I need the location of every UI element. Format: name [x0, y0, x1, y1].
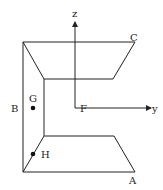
- solid-figure: [23, 42, 135, 172]
- top-right-slant-edge: [113, 42, 135, 79]
- top-left-slant-edge: [23, 42, 44, 79]
- y-axis-label: y: [151, 103, 158, 114]
- diagram-canvas: z y C B F G H A: [0, 0, 163, 190]
- label-a: A: [128, 175, 137, 186]
- label-h: H: [41, 149, 50, 160]
- point-g-dot: [31, 106, 36, 111]
- label-g: G: [29, 93, 37, 104]
- bottom-right-slant-edge: [114, 136, 135, 172]
- axes: [75, 22, 151, 108]
- z-axis-label: z: [72, 8, 77, 19]
- label-b: B: [11, 103, 18, 114]
- label-c: C: [130, 32, 138, 43]
- label-f: F: [80, 103, 87, 114]
- point-h-dot: [31, 152, 36, 157]
